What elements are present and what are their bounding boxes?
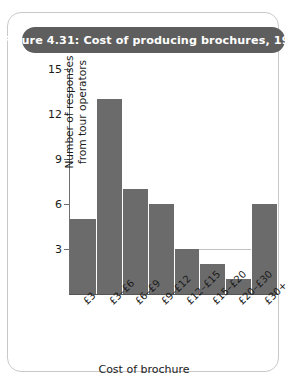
figure-title-bar: Figure 4.31: Cost of producing brochures… xyxy=(22,27,285,53)
x-axis-label: Cost of brochure xyxy=(8,363,280,376)
figure-frame: Figure 4.31: Cost of producing brochures… xyxy=(7,12,279,372)
bar-£3 xyxy=(70,219,96,294)
y-tick-label-15: 15 xyxy=(48,63,62,76)
plot-area xyxy=(70,69,277,294)
y-tick-label-12: 12 xyxy=(48,108,62,121)
y-tick-label-9: 9 xyxy=(55,153,62,166)
y-tick-label-6: 6 xyxy=(55,198,62,211)
y-tick-label-3: 3 xyxy=(55,243,62,256)
figure-title: Figure 4.31: Cost of producing brochures… xyxy=(2,34,290,47)
bar-£3–£6 xyxy=(96,99,122,294)
bar-£6–£9 xyxy=(122,189,148,294)
